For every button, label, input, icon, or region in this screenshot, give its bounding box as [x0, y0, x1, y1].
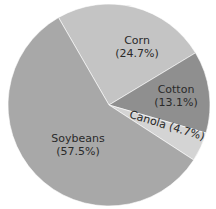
label-corn-pct: (24.7%): [115, 47, 159, 60]
pie-chart: Corn (24.7%) Cotton (13.1%) Canola (4.7%…: [0, 0, 216, 209]
label-cotton-pct: (13.1%): [154, 96, 198, 109]
label-soybeans-pct: (57.5%): [56, 145, 100, 158]
label-cotton-name: Cotton: [158, 83, 195, 96]
label-soybeans-name: Soybeans: [51, 132, 105, 145]
label-corn-name: Corn: [124, 34, 150, 47]
